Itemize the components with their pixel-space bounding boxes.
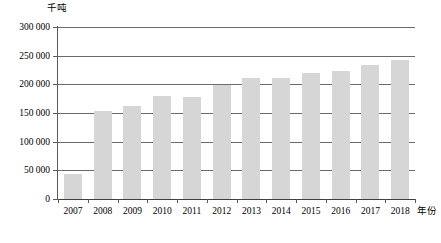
x-axis-tick-mark [88,199,89,203]
x-axis-tick-mark [177,199,178,203]
x-axis-tick-label: 2010 [153,205,172,217]
x-axis-tick-mark [266,199,267,203]
bar[interactable] [123,106,141,199]
x-axis-tick-label: 2009 [123,205,142,217]
x-axis-tick-mark [147,199,148,203]
bar[interactable] [213,85,231,199]
x-axis-tick-mark [326,199,327,203]
bar[interactable] [272,78,290,199]
y-axis-tick-mark [53,27,58,28]
x-axis-tick-mark [237,199,238,203]
x-axis-tick-label: 2008 [93,205,112,217]
y-axis-tick-mark [53,56,58,57]
x-axis-tick-label: 2007 [63,205,82,217]
y-axis-unit-label: 千吨 [47,2,67,14]
y-axis-tick-mark [53,113,58,114]
x-axis-tick-label: 2016 [331,205,350,217]
bar[interactable] [94,111,112,199]
bar[interactable] [183,97,201,199]
y-axis-tick-mark [53,199,58,200]
y-axis-tick-label: 150 000 [19,108,50,118]
x-axis-tick-label: 2011 [183,205,202,217]
plot-area [58,27,415,199]
x-axis-tick-mark [356,199,357,203]
y-axis-tick-label: 250 000 [19,51,50,61]
y-axis-tick-label: 100 000 [19,137,50,147]
x-axis-tick-marks [58,199,415,204]
y-axis-tick-mark [53,170,58,171]
y-axis-tick-labels: 050 000100 000150 000200 000250 000300 0… [0,0,50,243]
x-axis-tick-label: 2017 [361,205,380,217]
y-axis-tick-label: 0 [45,194,50,204]
bar[interactable] [242,78,260,199]
bar[interactable] [332,71,350,199]
y-axis-tick-label: 50 000 [24,165,50,175]
x-axis-tick-mark [415,199,416,203]
x-axis-tick-mark [58,199,59,203]
x-axis-tick-label: 2012 [212,205,231,217]
bar[interactable] [361,65,379,199]
x-axis-tick-mark [385,199,386,203]
y-axis-tick-mark [53,142,58,143]
bar[interactable] [153,96,171,199]
y-axis-tick-label: 300 000 [19,22,50,32]
x-axis-tick-mark [296,199,297,203]
gridline [58,27,415,28]
x-axis-tick-label: 2018 [391,205,410,217]
x-axis-tick-labels: 2007200820092010201120122013201420152016… [58,205,415,221]
x-axis-tick-label: 2015 [301,205,320,217]
bar[interactable] [391,60,409,199]
gridline [58,56,415,57]
bar[interactable] [64,174,82,199]
y-axis-tick-mark [53,84,58,85]
bar-chart: 千吨 050 000100 000150 000200 000250 00030… [0,0,441,243]
x-axis-tick-mark [207,199,208,203]
y-axis-tick-label: 200 000 [19,79,50,89]
x-axis-tick-mark [118,199,119,203]
x-axis-tick-label: 2013 [242,205,261,217]
bar[interactable] [302,73,320,199]
x-axis-title: 年份 [417,205,437,217]
x-axis-tick-label: 2014 [272,205,291,217]
